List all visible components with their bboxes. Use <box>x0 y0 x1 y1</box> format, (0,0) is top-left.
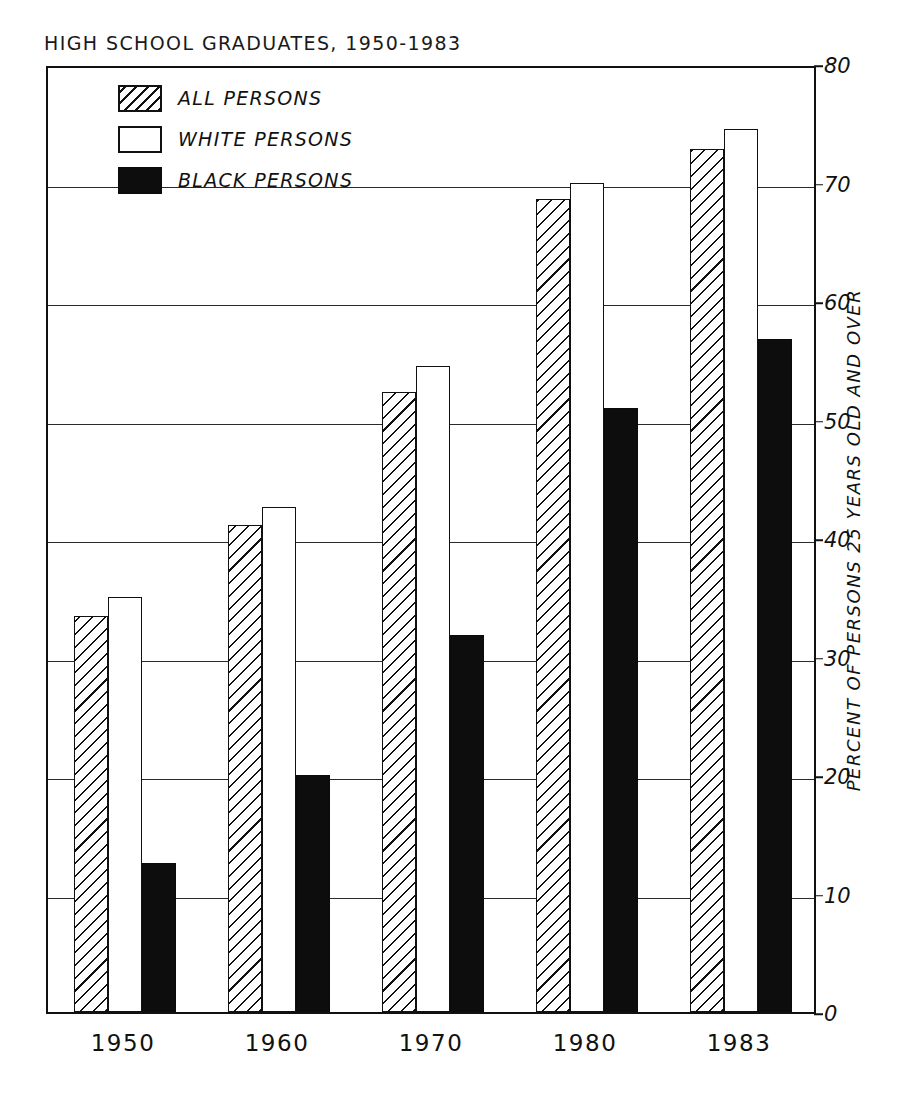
y-tick-mark <box>814 895 823 897</box>
legend-label: WHITE PERSONS <box>178 128 353 150</box>
y-tick-mark <box>814 776 823 778</box>
legend-item-all: ALL PERSONS <box>118 84 353 112</box>
legend-label: ALL PERSONS <box>178 87 322 109</box>
hatched-swatch-icon <box>118 85 162 112</box>
y-tick-mark <box>814 1013 823 1015</box>
legend-label: BLACK PERSONS <box>178 169 353 191</box>
legend-item-black: BLACK PERSONS <box>118 166 353 194</box>
chart-page: HIGH SCHOOL GRADUATES, 1950-1983 0102030… <box>0 0 914 1108</box>
y-tick-label: 0 <box>824 1002 837 1026</box>
legend-item-white: WHITE PERSONS <box>118 125 353 153</box>
x-tick-label-1960: 1960 <box>245 1030 310 1056</box>
x-tick-label-1970: 1970 <box>399 1030 464 1056</box>
y-axis-title: PERCENT OF PERSONS 25 YEARS OLD AND OVER <box>843 289 864 792</box>
bar-all-1950 <box>74 616 108 1012</box>
y-tick-label: 10 <box>824 884 851 908</box>
legend: ALL PERSONSWHITE PERSONSBLACK PERSONS <box>118 84 353 194</box>
x-tick-label-1983: 1983 <box>707 1030 772 1056</box>
bar-all-1970 <box>382 392 416 1012</box>
y-tick-mark <box>814 421 823 423</box>
bar-white-1983 <box>724 129 758 1012</box>
bar-black-1983 <box>758 339 792 1012</box>
y-tick-label: 80 <box>824 54 851 78</box>
x-tick-label-1980: 1980 <box>553 1030 618 1056</box>
y-tick-mark <box>814 302 823 304</box>
bar-white-1950 <box>108 597 142 1012</box>
bar-black-1980 <box>604 408 638 1012</box>
bar-black-1950 <box>142 863 176 1012</box>
bar-white-1970 <box>416 366 450 1012</box>
y-tick-mark <box>814 539 823 541</box>
plot-frame <box>46 66 816 1014</box>
y-tick-mark <box>814 184 823 186</box>
bar-all-1983 <box>690 149 724 1012</box>
bar-white-1960 <box>262 507 296 1012</box>
bar-white-1980 <box>570 183 604 1013</box>
y-tick-label: 70 <box>824 173 851 197</box>
filled-swatch-icon <box>118 167 162 194</box>
bar-black-1970 <box>450 635 484 1012</box>
bar-black-1960 <box>296 775 330 1012</box>
y-tick-mark <box>814 658 823 660</box>
bar-all-1960 <box>228 525 262 1012</box>
x-tick-label-1950: 1950 <box>91 1030 156 1056</box>
y-tick-mark <box>814 65 823 67</box>
open-swatch-icon <box>118 126 162 153</box>
bar-all-1980 <box>536 199 570 1012</box>
page-title: HIGH SCHOOL GRADUATES, 1950-1983 <box>44 32 461 54</box>
plot-area <box>48 68 814 1012</box>
